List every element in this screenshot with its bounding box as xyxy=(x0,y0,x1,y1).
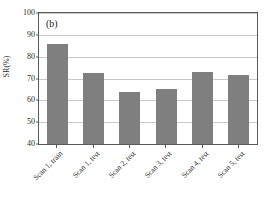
y-axis-tick-label: 80 xyxy=(27,53,35,61)
x-axis-tick-labels: Scan 1, trainScan 1, testScan 2, testSca… xyxy=(38,145,258,203)
bar xyxy=(228,75,249,144)
bar xyxy=(83,73,104,144)
y-axis-tick-label: 90 xyxy=(27,31,35,39)
bar-chart-figure: SR(%) (b) 405060708090100 Scan 1, trainS… xyxy=(0,0,271,204)
y-axis-tick-label: 50 xyxy=(27,118,35,126)
plot-area: (b) 405060708090100 xyxy=(38,12,258,145)
x-axis-tick-mark xyxy=(238,145,239,148)
x-axis-tick-mark xyxy=(202,145,203,148)
y-axis-tick-label: 100 xyxy=(23,9,35,17)
y-axis-tick-label: 70 xyxy=(27,75,35,83)
bar xyxy=(192,72,213,144)
x-axis-tick-mark xyxy=(93,145,94,148)
y-axis-tick-label: 40 xyxy=(27,140,35,148)
y-axis-tick-label: 60 xyxy=(27,96,35,104)
x-axis-tick-mark xyxy=(165,145,166,148)
bar xyxy=(119,92,140,144)
x-axis-tick-mark xyxy=(129,145,130,148)
x-axis-tick-mark xyxy=(56,145,57,148)
bar xyxy=(156,89,177,144)
bar-series xyxy=(39,13,257,144)
bar xyxy=(47,44,68,144)
y-axis-title: SR(%) xyxy=(2,45,11,89)
